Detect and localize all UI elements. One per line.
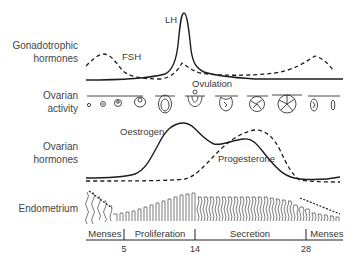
proliferative-glands [113, 193, 195, 221]
row-label-gonadotrophic: Gonadotrophic hormones [12, 40, 78, 64]
menstrual-cycle-diagram: Gonadotrophic hormones Ovarian activity … [0, 0, 357, 261]
row-label-ovarian-activity: Ovarian activity [43, 90, 78, 114]
row-label-ovarian-hormones: Ovarian hormones [34, 141, 78, 165]
row-label-line: hormones [34, 53, 78, 64]
ruptured-follicle-icon [188, 96, 202, 107]
phase-secretion: Secretion [230, 228, 270, 239]
secretory-glands [197, 197, 339, 221]
phase-menses-start: Menses [88, 228, 122, 239]
progesterone-curve [86, 130, 340, 182]
row-label-line: activity [47, 103, 78, 114]
row-label-line: Endometrium [19, 203, 78, 214]
day-tick-28: 28 [301, 244, 311, 254]
released-oocyte-icon [193, 90, 197, 94]
corpus-luteum-detail [224, 102, 227, 107]
phase-proliferation: Proliferation [135, 228, 186, 239]
corpus-luteum-detail [313, 102, 315, 108]
progesterone-label: Progesterone [218, 153, 275, 164]
corpus-albicans-icon [331, 100, 335, 110]
ovarian-hormones-panel: Oestrogen Progesterone [86, 123, 340, 182]
phase-bar: Menses Proliferation Secretion Menses 5 … [86, 228, 344, 254]
endometrial-gland [98, 196, 101, 220]
ovulation-label: Ovulation [192, 78, 232, 89]
oestrogen-label: Oestrogen [120, 126, 164, 137]
row-label-line: Ovarian [43, 90, 78, 101]
oocyte-icon [117, 101, 120, 104]
endometrial-gland [86, 192, 89, 224]
endometrial-gland [92, 192, 95, 224]
antrum-icon [161, 99, 169, 111]
gonadotrophic-panel: LH FSH Ovulation [86, 13, 343, 89]
shedding-layer [89, 191, 112, 208]
lh-label: LH [165, 14, 177, 25]
day-tick-5: 5 [121, 244, 126, 254]
oocyte-icon [138, 98, 142, 102]
ovarian-activity-panel [87, 90, 340, 113]
oocyte-icon [102, 103, 104, 105]
day-tick-14: 14 [190, 244, 200, 254]
primordial-follicle-icon [87, 103, 90, 106]
fsh-label: FSH [122, 51, 141, 62]
shedding-layer [300, 198, 340, 214]
regressing-corpus-luteum-icon [311, 99, 318, 111]
row-label-line: Ovarian [43, 141, 78, 152]
endometrium-panel [86, 191, 341, 224]
phase-menses-end: Menses [310, 228, 344, 239]
lh-curve [86, 13, 343, 80]
graafian-follicle-icon [159, 95, 172, 113]
row-label-line: Gonadotrophic [12, 40, 78, 51]
row-label-endometrium: Endometrium [19, 203, 78, 214]
corpus-luteum-detail [251, 100, 262, 109]
row-label-line: hormones [34, 154, 78, 165]
